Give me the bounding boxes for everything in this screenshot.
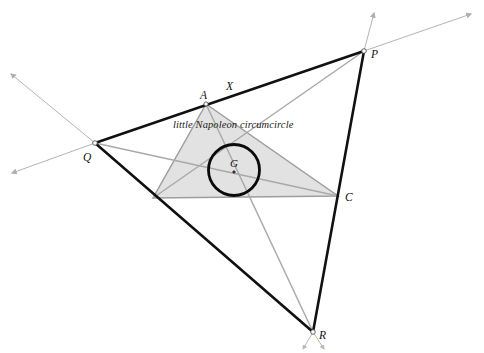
vertex-marker-Q <box>93 141 98 146</box>
vertex-marker-P <box>362 49 367 54</box>
geometry-diagram-canvas: P Q R A C X G little Napoleon circumcirc… <box>0 0 484 353</box>
ray-from-P-up <box>364 13 374 51</box>
ray-from-Q-upleft <box>11 74 95 143</box>
point-label-A: A <box>200 90 207 102</box>
point-label-R: R <box>319 330 326 342</box>
vertex-marker-G <box>233 171 236 174</box>
point-label-G: G <box>230 158 238 169</box>
vertex-marker-A <box>204 102 208 106</box>
point-label-Q: Q <box>83 152 91 164</box>
point-label-P: P <box>371 49 378 61</box>
cevian-R-to-A <box>206 104 313 332</box>
point-label-X: X <box>226 81 233 93</box>
ray-from-R-downleft <box>303 332 313 349</box>
ray-from-P-right <box>364 14 471 51</box>
vertex-marker-R <box>311 330 316 335</box>
circle-caption-label: little Napoleon circumcircle <box>173 120 293 131</box>
napoleon-circumcircle-figure <box>0 0 484 353</box>
point-label-C: C <box>345 192 353 204</box>
